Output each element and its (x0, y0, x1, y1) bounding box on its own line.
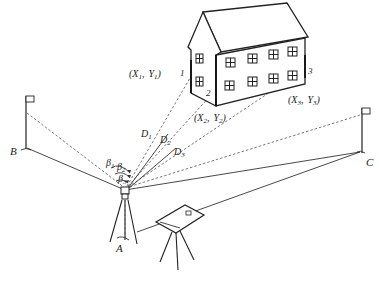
coord-label-2: (X2,Y2) (194, 112, 227, 125)
flag-b-icon (21, 96, 34, 150)
sight-line-c (125, 115, 360, 188)
label-c: C (366, 156, 374, 168)
distance-label-d1: D1 (140, 128, 152, 141)
svg-text:(X2,Y2): (X2,Y2) (194, 112, 227, 125)
distance-label-d3: D3 (173, 146, 185, 159)
svg-text:(X1,Y1): (X1,Y1) (129, 68, 162, 81)
coord-label-1: (X1,Y1) (129, 68, 162, 81)
sight-line-b (27, 113, 125, 188)
flag-c-icon (357, 108, 370, 153)
point-label-3: 3 (307, 66, 313, 76)
coord-label-3: (X3,Y3) (288, 94, 321, 107)
svg-text:(X3,Y3): (X3,Y3) (288, 94, 321, 107)
angle-label-beta1: β1 (105, 157, 114, 170)
plane-table-icon (156, 205, 204, 270)
survey-diagram: B C A 1 2 3 (X1,Y1) (X2,Y2) (X3,Y3) D1 D… (0, 0, 379, 282)
angle-label-beta3: β3 (117, 173, 127, 186)
label-b: B (10, 145, 17, 157)
total-station-icon (110, 187, 137, 244)
ray-d1 (127, 78, 190, 186)
point-label-1: 1 (180, 68, 185, 78)
point-label-2: 2 (206, 88, 211, 98)
label-a: A (115, 242, 123, 254)
line-a-c (125, 152, 360, 190)
